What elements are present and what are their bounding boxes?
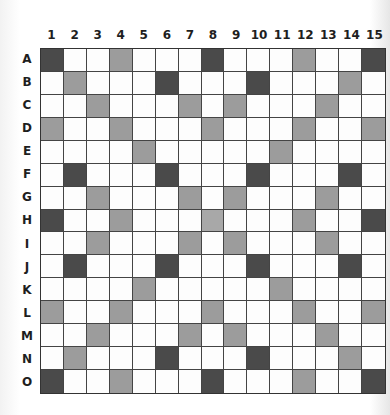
board-cell-m15[interactable]: [362, 324, 385, 347]
board-cell-n5[interactable]: [133, 347, 156, 370]
board-cell-g12[interactable]: [293, 187, 316, 210]
board-cell-a15[interactable]: [362, 49, 385, 72]
board-cell-i1[interactable]: [41, 232, 64, 255]
board-cell-d5[interactable]: [133, 118, 156, 141]
board-cell-n12[interactable]: [293, 347, 316, 370]
board-cell-a3[interactable]: [87, 49, 110, 72]
board-cell-j13[interactable]: [316, 255, 339, 278]
board-cell-l1[interactable]: [41, 301, 64, 324]
board-cell-g9[interactable]: [224, 187, 247, 210]
board-cell-o11[interactable]: [270, 370, 293, 393]
board-cell-c4[interactable]: [110, 95, 133, 118]
board-cell-c14[interactable]: [339, 95, 362, 118]
board-cell-m13[interactable]: [316, 324, 339, 347]
board-cell-h13[interactable]: [316, 210, 339, 233]
board-cell-e8[interactable]: [202, 141, 225, 164]
board-cell-l9[interactable]: [224, 301, 247, 324]
board-cell-h8[interactable]: [202, 210, 225, 233]
board-cell-l7[interactable]: [179, 301, 202, 324]
board-cell-d12[interactable]: [293, 118, 316, 141]
board-cell-c2[interactable]: [64, 95, 87, 118]
board-cell-l12[interactable]: [293, 301, 316, 324]
board-cell-a9[interactable]: [224, 49, 247, 72]
board-cell-g1[interactable]: [41, 187, 64, 210]
board-cell-o7[interactable]: [179, 370, 202, 393]
board-cell-a10[interactable]: [247, 49, 270, 72]
board-cell-o1[interactable]: [41, 370, 64, 393]
board-cell-n10[interactable]: [247, 347, 270, 370]
board-cell-k12[interactable]: [293, 278, 316, 301]
board-cell-k14[interactable]: [339, 278, 362, 301]
board-cell-l6[interactable]: [156, 301, 179, 324]
board-cell-m11[interactable]: [270, 324, 293, 347]
board-cell-e10[interactable]: [247, 141, 270, 164]
board-cell-i8[interactable]: [202, 232, 225, 255]
board-cell-g15[interactable]: [362, 187, 385, 210]
board-cell-i15[interactable]: [362, 232, 385, 255]
board-cell-c5[interactable]: [133, 95, 156, 118]
board-cell-d13[interactable]: [316, 118, 339, 141]
board-cell-c3[interactable]: [87, 95, 110, 118]
board-cell-h10[interactable]: [247, 210, 270, 233]
board-cell-f3[interactable]: [87, 164, 110, 187]
board-cell-l14[interactable]: [339, 301, 362, 324]
board-cell-o3[interactable]: [87, 370, 110, 393]
board-cell-i12[interactable]: [293, 232, 316, 255]
board-cell-h11[interactable]: [270, 210, 293, 233]
board-cell-e3[interactable]: [87, 141, 110, 164]
board-cell-d2[interactable]: [64, 118, 87, 141]
board-cell-d10[interactable]: [247, 118, 270, 141]
board-cell-m6[interactable]: [156, 324, 179, 347]
board-cell-c1[interactable]: [41, 95, 64, 118]
board-cell-m3[interactable]: [87, 324, 110, 347]
board-cell-d3[interactable]: [87, 118, 110, 141]
board-cell-j9[interactable]: [224, 255, 247, 278]
board-cell-g5[interactable]: [133, 187, 156, 210]
board-cell-m10[interactable]: [247, 324, 270, 347]
board-cell-f14[interactable]: [339, 164, 362, 187]
board-cell-o12[interactable]: [293, 370, 316, 393]
board-cell-l2[interactable]: [64, 301, 87, 324]
board-cell-c10[interactable]: [247, 95, 270, 118]
board-cell-j11[interactable]: [270, 255, 293, 278]
board-cell-n3[interactable]: [87, 347, 110, 370]
board-cell-f8[interactable]: [202, 164, 225, 187]
board-cell-i3[interactable]: [87, 232, 110, 255]
board-cell-j2[interactable]: [64, 255, 87, 278]
board-cell-f7[interactable]: [179, 164, 202, 187]
board-cell-n8[interactable]: [202, 347, 225, 370]
board-cell-f2[interactable]: [64, 164, 87, 187]
board-cell-g11[interactable]: [270, 187, 293, 210]
board-cell-o13[interactable]: [316, 370, 339, 393]
board-cell-c7[interactable]: [179, 95, 202, 118]
board-cell-h1[interactable]: [41, 210, 64, 233]
board-cell-a8[interactable]: [202, 49, 225, 72]
board-cell-m2[interactable]: [64, 324, 87, 347]
board-cell-n11[interactable]: [270, 347, 293, 370]
board-cell-d6[interactable]: [156, 118, 179, 141]
board-cell-j1[interactable]: [41, 255, 64, 278]
board-cell-k3[interactable]: [87, 278, 110, 301]
board-cell-m12[interactable]: [293, 324, 316, 347]
board-cell-f15[interactable]: [362, 164, 385, 187]
board-cell-c15[interactable]: [362, 95, 385, 118]
board-cell-a2[interactable]: [64, 49, 87, 72]
board-cell-n2[interactable]: [64, 347, 87, 370]
board-cell-d4[interactable]: [110, 118, 133, 141]
board-cell-o4[interactable]: [110, 370, 133, 393]
board-cell-h7[interactable]: [179, 210, 202, 233]
board-cell-o6[interactable]: [156, 370, 179, 393]
board-cell-j15[interactable]: [362, 255, 385, 278]
board-cell-e6[interactable]: [156, 141, 179, 164]
board-cell-n15[interactable]: [362, 347, 385, 370]
board-cell-e9[interactable]: [224, 141, 247, 164]
board-cell-f10[interactable]: [247, 164, 270, 187]
board-cell-l10[interactable]: [247, 301, 270, 324]
board-cell-g14[interactable]: [339, 187, 362, 210]
board-cell-g7[interactable]: [179, 187, 202, 210]
board-cell-j10[interactable]: [247, 255, 270, 278]
board-cell-b8[interactable]: [202, 72, 225, 95]
board-cell-o5[interactable]: [133, 370, 156, 393]
board-cell-o2[interactable]: [64, 370, 87, 393]
board-cell-k7[interactable]: [179, 278, 202, 301]
